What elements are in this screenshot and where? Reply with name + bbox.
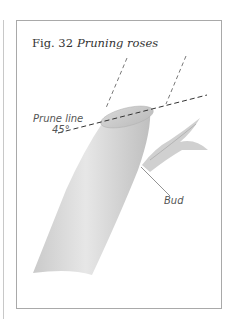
bud-shoot xyxy=(142,118,208,172)
angle-guide-left xyxy=(106,58,127,108)
angle-label: 45° xyxy=(52,124,70,135)
angle-guide-right xyxy=(166,56,186,104)
bud-pointer xyxy=(141,167,170,196)
prune-line-label: Prune line xyxy=(33,113,83,124)
pruning-illustration xyxy=(0,0,233,319)
bud-label: Bud xyxy=(164,195,184,206)
rose-stem xyxy=(33,108,150,275)
